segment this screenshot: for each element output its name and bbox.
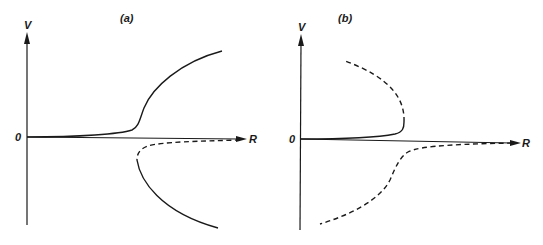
panel-a-r-label: R	[249, 133, 257, 145]
panel-a-upper-stable-curve	[27, 51, 222, 137]
panel-b: (b) V R 0	[289, 12, 530, 230]
panel-b-origin-label: 0	[289, 133, 296, 145]
panel-b-v-axis	[300, 42, 301, 230]
panel-b-r-axis	[300, 139, 513, 143]
panel-a: (a) V R 0	[15, 12, 257, 228]
panel-a-origin-label: 0	[15, 131, 22, 143]
panel-b-v-arrow-icon	[298, 34, 304, 46]
panel-a-v-arrow-icon	[24, 32, 30, 44]
panel-b-lower-unstable-curve	[320, 143, 512, 224]
panel-b-v-label: V	[298, 21, 307, 33]
panel-b-upper-stable-curve	[301, 122, 404, 139]
bifurcation-diagram: (a) V R 0 (b) V R 0	[0, 0, 543, 245]
panel-a-lower-stable-curve	[137, 160, 218, 228]
panel-a-v-label: V	[24, 19, 33, 31]
panel-b-r-label: R	[522, 137, 530, 149]
panel-b-label: (b)	[338, 12, 352, 24]
panel-b-upper-unstable-curve	[345, 61, 404, 122]
panel-a-r-arrow-icon	[236, 136, 247, 142]
panel-a-lower-unstable-curve	[137, 140, 240, 160]
panel-a-label: (a)	[120, 12, 134, 24]
